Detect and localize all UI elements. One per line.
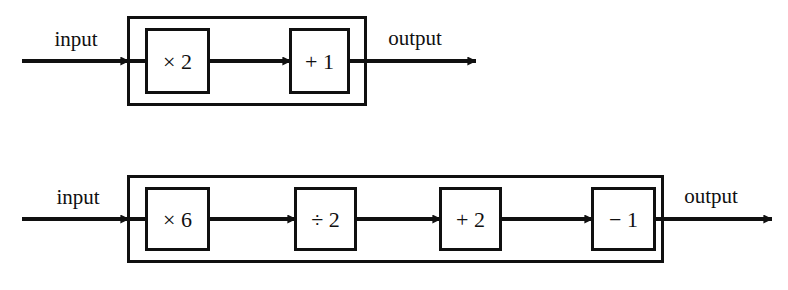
- diagram-canvas: × 2 + 1 input output × 6: [0, 0, 788, 290]
- machine-1-op-2-label: + 1: [305, 49, 334, 74]
- machine-1-output-label: output: [388, 26, 442, 50]
- machine-2-op-2-label: ÷ 2: [311, 207, 340, 232]
- function-machine-1: × 2 + 1 input output: [22, 18, 476, 105]
- machine-2-op-1-label: × 6: [163, 207, 192, 232]
- machine-2-op-3-label: + 2: [456, 207, 485, 232]
- machine-1-op-1-label: × 2: [163, 49, 192, 74]
- machine-2-input-label: input: [56, 185, 99, 209]
- function-machine-2: × 6 ÷ 2 + 2 − 1 input output: [22, 177, 772, 262]
- machine-2-output-label: output: [684, 184, 738, 208]
- machine-2-op-4-label: − 1: [609, 207, 638, 232]
- machine-1-input-label: input: [54, 27, 97, 51]
- function-machines-figure: × 2 + 1 input output × 6: [0, 0, 788, 290]
